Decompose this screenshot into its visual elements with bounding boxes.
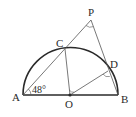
label-o: O <box>65 98 73 110</box>
geometry-diagram: A B O C D P 48° <box>0 0 136 117</box>
label-p: P <box>88 6 94 18</box>
center-point-o <box>68 93 71 96</box>
angle-marker-p <box>86 26 93 28</box>
angle-marker-d <box>103 74 110 77</box>
angle-label-a: 48° <box>32 84 46 95</box>
line-oc <box>65 49 70 95</box>
label-a: A <box>12 91 20 103</box>
label-d: D <box>110 58 118 70</box>
label-b: B <box>121 93 128 105</box>
angle-marker-a <box>28 89 31 95</box>
angle-marker-o <box>69 90 74 92</box>
label-c: C <box>56 37 63 49</box>
line-od <box>70 71 108 95</box>
